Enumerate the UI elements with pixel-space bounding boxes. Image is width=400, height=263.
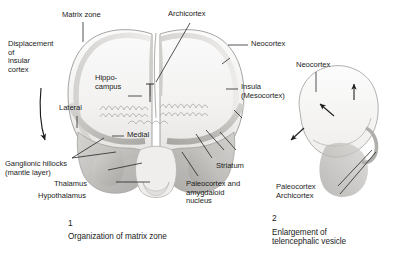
panel1-caption-number: 1 xyxy=(68,219,73,228)
growth-arrow-downleft xyxy=(291,128,304,140)
label-thalamus: Thalamus xyxy=(54,180,87,189)
label-archicortex-2: Archicortex xyxy=(276,192,313,201)
telencephalon-development-diagram xyxy=(0,0,400,263)
label-lateral: Lateral xyxy=(59,104,82,113)
diencephalon-thalamus xyxy=(136,146,177,197)
interhemispheric-fissure xyxy=(154,33,156,118)
label-medial: Medial xyxy=(127,131,149,140)
label-paleocortex-and-amygdaloid-nucleus: Paleocortex and amygdaloid nucleus xyxy=(186,180,240,206)
panel2-caption-number: 2 xyxy=(272,214,277,223)
panel2-caption-text: Enlargement of telencephalic vesicle xyxy=(272,228,346,247)
panel1-caption-text: Organization of matrix zone xyxy=(68,232,167,241)
label-displacement-of-insular-cortex: Displacement of insular cortex xyxy=(8,40,53,74)
label-archicortex: Archicortex xyxy=(168,10,205,19)
label-hypothalamus: Hypothalamus xyxy=(38,192,86,201)
panel2-telencephalic-vesicle xyxy=(291,66,378,197)
label-neocortex: Neocortex xyxy=(251,40,285,49)
label-ganglionic-hillocks: Ganglionic hillocks (mantle layer) xyxy=(5,160,67,177)
displacement-arrow xyxy=(40,88,45,140)
label-matrix-zone: Matrix zone xyxy=(62,11,101,20)
label-neocortex-2: Neocortex xyxy=(296,61,330,70)
label-hippocampus: Hippo- campus xyxy=(95,74,121,91)
label-striatum: Striatum xyxy=(216,162,244,171)
label-insula-mesocortex: Insula (Mesocortex) xyxy=(241,83,285,100)
